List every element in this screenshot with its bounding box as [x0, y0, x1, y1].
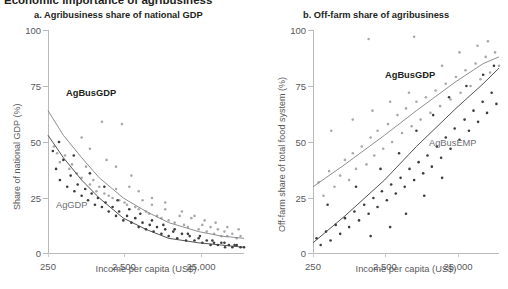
- panel-a-xlabel-250: 250: [40, 261, 56, 272]
- panel-a-series-label-aggdp: AgGDP: [56, 200, 88, 210]
- figure-root: Economic importance of agribusiness a. A…: [0, 0, 508, 289]
- panel-a-ylabel-25: 25: [30, 193, 41, 204]
- panel-b-ylabel-100: 100: [290, 25, 306, 36]
- panel-b-y-axis-title: Off-farm share of total food system (%): [277, 77, 287, 232]
- panel-a-xlabel-2500: 2,500: [112, 261, 136, 272]
- panel-b-series-label-agbusemp: AgBusEMP: [429, 138, 477, 148]
- panel-b-subtitle: b. Off-farm share of agribusiness: [303, 10, 449, 20]
- panel-b-ylabel-25: 25: [295, 193, 306, 204]
- panel-b-plot-area: 100 75 50 25 0 250 2,500 25,000 AgBusGDP…: [313, 30, 499, 254]
- panel-a-ylabel-0: 0: [36, 248, 41, 259]
- panel-b-xlabel-250: 250: [305, 261, 321, 272]
- panel-a-xlabel-25000: 25,000: [186, 261, 215, 272]
- panel-a-subtitle: a. Agribusiness share of national GDP: [34, 10, 203, 20]
- panel-a-y-axis-title: Share of national GDP (%): [12, 104, 22, 210]
- panel-a-series-label-agbusgdp: AgBusGDP: [66, 88, 116, 98]
- panel-b-xlabel-25000: 25,000: [443, 261, 472, 272]
- panel-b-series-label-agbusgdp: AgBusGDP: [385, 70, 435, 80]
- panel-a-ylabel-50: 50: [30, 137, 41, 148]
- panel-b-x-axis-title: Income per capita (US$): [356, 264, 457, 274]
- panel-a-x-axis-title: Income per capita (US$): [96, 264, 197, 274]
- panel-b-ylabel-75: 75: [295, 81, 306, 92]
- panel-b-xlabel-2500: 2,500: [373, 261, 397, 272]
- panel-a-plot-area: 100 75 50 25 0 250 2,500 25,000 AgBusGDP…: [48, 30, 244, 254]
- panel-b-ylabel-0: 0: [301, 248, 306, 259]
- panel-b: b. Off-farm share of agribusiness Off-fa…: [265, 0, 508, 289]
- panel-a-ylabel-100: 100: [25, 25, 41, 36]
- panel-a: a. Agribusiness share of national GDP Sh…: [0, 0, 265, 289]
- panel-a-scatter-svg: [48, 30, 244, 254]
- panel-a-ylabel-75: 75: [30, 81, 41, 92]
- panel-b-ylabel-50: 50: [295, 137, 306, 148]
